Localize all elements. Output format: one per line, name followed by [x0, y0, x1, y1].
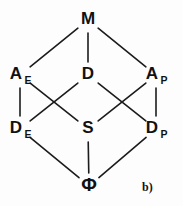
node-de: DE: [10, 118, 32, 139]
edge-s-phi: [88, 142, 89, 173]
node-phi: Φ: [81, 174, 97, 195]
node-de-subscript-label: E: [24, 128, 31, 140]
node-dp-subscript-label: P: [160, 128, 167, 140]
node-phi-base-label: Φ: [81, 174, 97, 195]
lattice-graph: MAEDAPDESDPΦ b): [0, 0, 183, 206]
figure-caption: b): [142, 180, 153, 194]
node-m: M: [81, 9, 95, 28]
edge-m-ap: [98, 28, 146, 67]
lattice-diagram-figure: MAEDAPDESDPΦ b): [0, 0, 183, 206]
node-dp-base-label: D: [146, 118, 158, 137]
node-ae: AE: [10, 64, 32, 85]
node-ap-subscript-label: P: [160, 74, 167, 86]
node-d: D: [82, 64, 94, 83]
edge-group: [20, 28, 156, 178]
node-ap-base-label: A: [146, 64, 158, 83]
node-s: S: [82, 118, 93, 137]
node-ae-base-label: A: [10, 64, 22, 83]
node-de-base-label: D: [10, 118, 22, 137]
node-ap: AP: [146, 64, 168, 85]
edge-de-phi: [30, 137, 79, 177]
node-m-base-label: M: [81, 9, 95, 28]
edge-dp-phi: [99, 137, 146, 177]
edge-m-ae: [30, 28, 78, 67]
node-d-base-label: D: [82, 64, 94, 83]
node-s-base-label: S: [82, 118, 93, 137]
node-ae-subscript-label: E: [24, 74, 31, 86]
node-dp: DP: [146, 118, 168, 139]
